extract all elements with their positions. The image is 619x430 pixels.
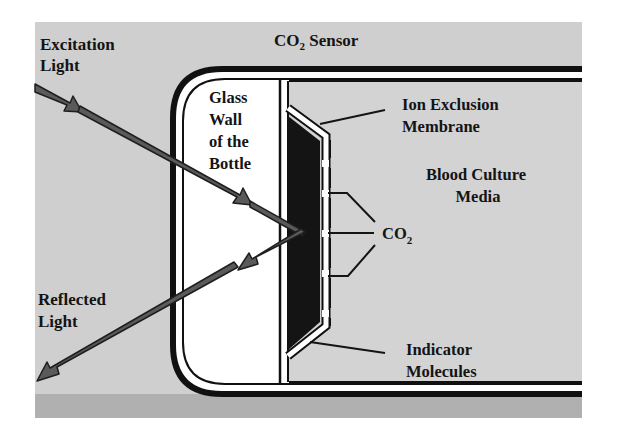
co2-sensor-diagram: Excitation Light CO2 Sensor Glass Wall o… xyxy=(0,0,619,430)
sensor-title: CO2 Sensor xyxy=(274,31,359,52)
lower-band xyxy=(35,394,582,418)
